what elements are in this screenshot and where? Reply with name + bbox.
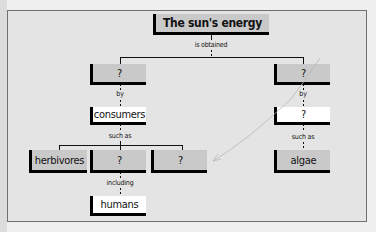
pencil-mark	[0, 0, 376, 232]
